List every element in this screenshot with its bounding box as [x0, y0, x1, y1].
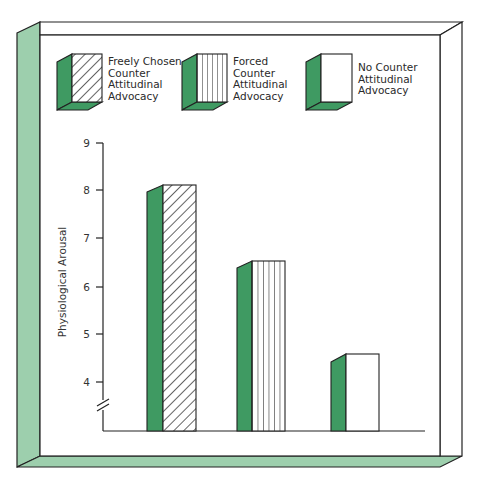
legend-line: Forced: [233, 56, 288, 68]
y-tick-label: 5: [83, 328, 90, 340]
legend-label-freely-chosen: Freely Chosen Counter Attitudinal Advoca…: [108, 56, 182, 102]
bar-forced: [237, 261, 285, 431]
legend-line: Attitudinal: [233, 79, 288, 91]
legend-label-no-counter: No Counter Attitudinal Advocacy: [358, 62, 418, 97]
y-tick-label: 9: [83, 137, 90, 149]
legend-line: Advocacy: [233, 91, 288, 103]
legend-line: No Counter: [358, 62, 418, 74]
legend-line: Attitudinal: [108, 79, 182, 91]
legend-label-forced: Forced Counter Attitudinal Advocacy: [233, 56, 288, 102]
legend-line: Advocacy: [108, 91, 182, 103]
bar-no-counter: [331, 354, 379, 431]
y-tick-label: 7: [83, 232, 90, 244]
chart-figure: 9 8 7 6 5 4 Physiological Arousal Freely…: [0, 0, 479, 484]
y-tick-label: 4: [83, 376, 90, 388]
y-tick-label: 6: [83, 281, 90, 293]
legend-swatch-freely-chosen: [57, 54, 102, 110]
legend-line: Advocacy: [358, 85, 418, 97]
bar-freely-chosen: [147, 185, 196, 431]
legend-swatch-no-counter: [306, 54, 352, 110]
y-axis-title: Physiological Arousal: [56, 227, 68, 338]
legend-swatch-forced: [182, 54, 227, 110]
y-tick-label: 8: [83, 184, 90, 196]
legend-line: Freely Chosen: [108, 56, 182, 68]
axis-break-icon: [97, 399, 109, 411]
